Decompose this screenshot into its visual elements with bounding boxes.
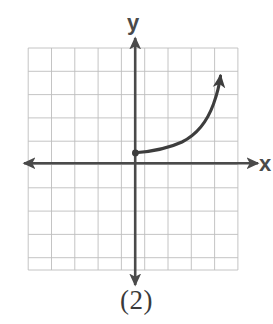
y-axis-label: y (127, 10, 140, 35)
figure-caption: (2) (0, 283, 273, 317)
graph-figure: y x (0, 0, 273, 324)
curve-start-point (132, 150, 139, 157)
x-axis-label: x (259, 151, 272, 176)
